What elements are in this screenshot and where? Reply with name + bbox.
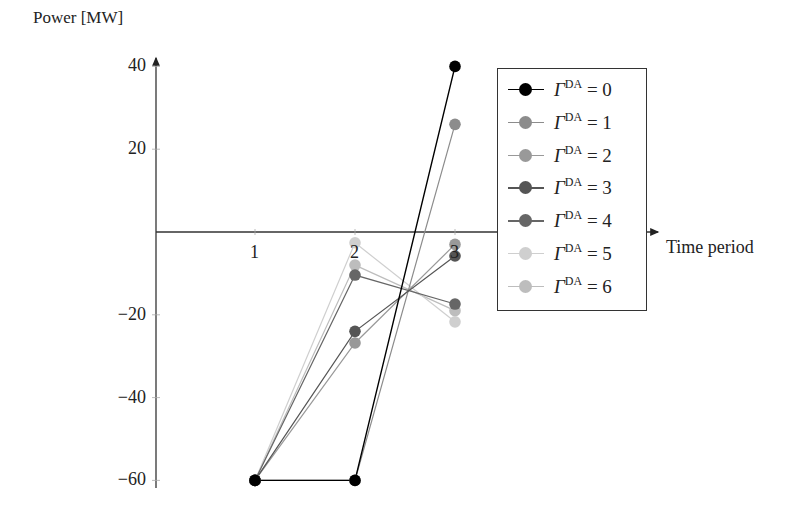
legend-item: ΓDA = 1 xyxy=(498,108,648,138)
series-line-3 xyxy=(255,256,455,480)
legend-marker-icon xyxy=(519,116,532,129)
legend-item: ΓDA = 2 xyxy=(498,141,648,171)
legend-marker-icon xyxy=(519,214,532,227)
legend-item: ΓDA = 3 xyxy=(498,173,648,203)
x-tick-label: 1 xyxy=(250,242,259,263)
y-tick-label: −60 xyxy=(118,469,146,490)
x-tick-label: 3 xyxy=(450,242,459,263)
legend-marker-icon xyxy=(519,181,532,194)
legend-label: ΓDA = 1 xyxy=(554,110,612,134)
legend-label: ΓDA = 4 xyxy=(554,208,612,232)
y-axis-label: Power [MW] xyxy=(33,8,123,28)
data-point xyxy=(449,61,461,73)
data-point xyxy=(449,119,461,131)
y-tick-label: 40 xyxy=(128,55,146,76)
legend-item: ΓDA = 6 xyxy=(498,272,648,302)
legend-item: ΓDA = 5 xyxy=(498,239,648,269)
axis-ticks xyxy=(152,66,455,480)
legend-marker-icon xyxy=(519,83,532,96)
x-tick-label: 2 xyxy=(350,242,359,263)
data-point xyxy=(249,475,261,487)
data-point xyxy=(349,269,361,281)
legend: ΓDA = 0ΓDA = 1ΓDA = 2ΓDA = 3ΓDA = 4ΓDA =… xyxy=(497,68,647,311)
series-markers xyxy=(249,61,461,487)
y-tick-label: −20 xyxy=(118,304,146,325)
legend-item: ΓDA = 4 xyxy=(498,206,648,236)
legend-label: ΓDA = 2 xyxy=(554,143,612,167)
legend-item: ΓDA = 0 xyxy=(498,75,648,105)
series-line-1 xyxy=(255,124,455,480)
legend-marker-icon xyxy=(519,247,532,260)
data-point xyxy=(349,475,361,487)
legend-label: ΓDA = 6 xyxy=(554,274,612,298)
legend-label: ΓDA = 0 xyxy=(554,77,612,101)
data-point xyxy=(449,298,461,310)
legend-marker-icon xyxy=(519,280,532,293)
legend-label: ΓDA = 3 xyxy=(554,175,612,199)
y-tick-label: 20 xyxy=(128,138,146,159)
legend-label: ΓDA = 5 xyxy=(554,241,612,265)
data-point xyxy=(449,316,461,328)
x-axis-label: Time period xyxy=(666,237,754,258)
y-tick-label: −40 xyxy=(118,387,146,408)
legend-marker-icon xyxy=(519,149,532,162)
data-point xyxy=(349,337,361,349)
series-line-4 xyxy=(255,275,455,480)
data-point xyxy=(349,326,361,338)
